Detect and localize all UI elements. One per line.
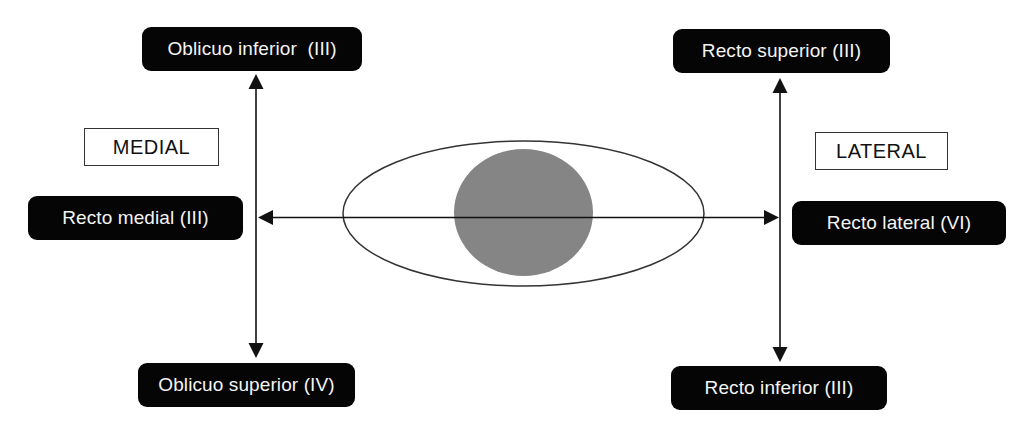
- medial-label-text: MEDIAL: [113, 136, 190, 159]
- muscle-box-oblicuo-superior: Oblicuo superior (IV): [138, 363, 355, 407]
- muscle-label-recto-medial: Recto medial (III): [62, 207, 208, 229]
- arrow-down-right-icon: [773, 347, 788, 362]
- muscle-label-recto-inferior: Recto inferior (III): [705, 377, 854, 399]
- medial-label: MEDIAL: [84, 128, 219, 166]
- arrow-down-left-icon: [249, 343, 264, 358]
- arrow-up-left-icon: [249, 74, 264, 89]
- eye-muscles-diagram: MEDIAL LATERAL Oblicuo inferior (III) Re…: [0, 0, 1032, 432]
- muscle-label-oblicuo-inferior: Oblicuo inferior (III): [167, 38, 336, 60]
- arrow-up-right-icon: [773, 78, 788, 93]
- muscle-label-recto-superior: Recto superior (III): [702, 40, 861, 62]
- lateral-label: LATERAL: [815, 132, 948, 170]
- arrow-left-medial-icon: [258, 210, 273, 225]
- muscle-box-recto-inferior: Recto inferior (III): [671, 366, 887, 410]
- eye-iris-shape: [454, 149, 593, 276]
- muscle-box-recto-lateral: Recto lateral (VI): [792, 201, 1006, 245]
- lateral-label-text: LATERAL: [836, 140, 927, 163]
- muscle-box-recto-superior: Recto superior (III): [673, 29, 890, 73]
- muscle-box-recto-medial: Recto medial (III): [28, 196, 243, 240]
- muscle-label-oblicuo-superior: Oblicuo superior (IV): [158, 374, 334, 396]
- muscle-box-oblicuo-inferior: Oblicuo inferior (III): [142, 27, 362, 71]
- muscle-label-recto-lateral: Recto lateral (VI): [827, 212, 971, 234]
- arrow-right-lateral-icon: [764, 210, 779, 225]
